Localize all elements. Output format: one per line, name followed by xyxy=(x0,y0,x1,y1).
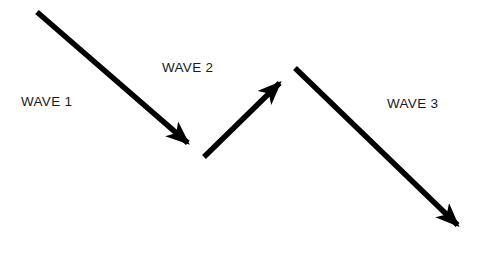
wave-diagram-canvas: WAVE 1 WAVE 2 WAVE 3 xyxy=(0,0,497,260)
wave-2-label: WAVE 2 xyxy=(162,61,213,75)
wave-2-arrow xyxy=(204,83,280,157)
wave-3-label: WAVE 3 xyxy=(387,97,438,111)
wave-2-up-arrow xyxy=(204,83,280,157)
wave-1-arrow xyxy=(37,12,188,143)
wave-1-down-arrow xyxy=(37,12,188,143)
wave-diagram-svg xyxy=(0,0,497,260)
wave-1-label: WAVE 1 xyxy=(21,95,72,109)
wave-3-arrow xyxy=(295,68,458,225)
wave-3-down-arrow xyxy=(295,68,458,225)
